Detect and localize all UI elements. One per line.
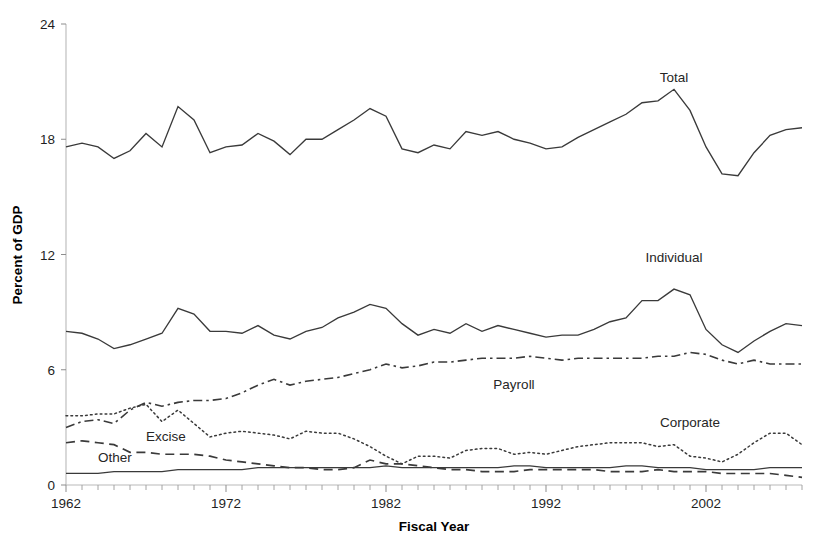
series-label-excise: Excise [146, 429, 186, 444]
y-axis-title: Percent of GDP [10, 205, 25, 304]
chart-container: 0612182419621972198219922002 TotalIndivi… [0, 0, 827, 550]
series-label-other: Other [98, 450, 132, 465]
y-tick-label: 12 [40, 248, 55, 263]
series-label-individual: Individual [645, 250, 702, 265]
y-tick-label: 24 [40, 17, 56, 32]
line-chart: 0612182419621972198219922002 TotalIndivi… [0, 0, 827, 550]
x-tick-label: 1992 [531, 496, 561, 511]
y-tick-label: 18 [40, 132, 55, 147]
x-axis-title: Fiscal Year [399, 519, 470, 534]
x-tick-label: 1962 [51, 496, 81, 511]
x-tick-label: 1972 [211, 496, 241, 511]
series-line-total [66, 89, 802, 175]
series-label-payroll: Payroll [493, 377, 534, 392]
series-line-individual [66, 289, 802, 352]
x-tick-label: 2002 [691, 496, 721, 511]
y-tick-label: 6 [47, 363, 55, 378]
series-label-total: Total [660, 70, 689, 85]
series-line-excise [66, 441, 802, 478]
series-label-corporate: Corporate [660, 415, 720, 430]
series-label-layer: TotalIndividualPayrollCorporateExciseOth… [98, 70, 720, 465]
y-tick-label: 0 [47, 478, 55, 493]
x-tick-label: 1982 [371, 496, 401, 511]
